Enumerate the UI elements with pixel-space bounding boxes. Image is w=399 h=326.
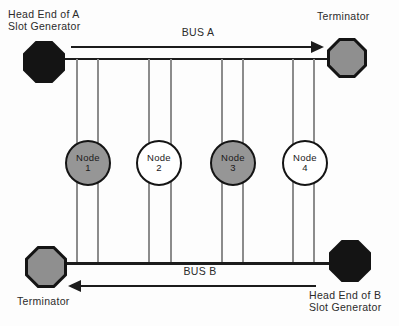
terminator-top-label: Terminator [317,11,370,23]
node-2: Node 2 [136,140,182,186]
bus-a-label: BUS A [158,27,238,39]
head-end-b-octagon-icon [329,240,371,282]
terminator-bottom-octagon-fill [28,249,64,285]
node-4: Node 4 [282,140,328,186]
terminator-bottom-label: Terminator [17,296,70,308]
node-1-number: 1 [85,163,91,174]
terminator-bottom-octagon-icon [25,246,67,288]
head-end-a-label-line2: Slot Generator [8,21,81,33]
head-end-a-octagon-icon [23,41,65,83]
terminator-top-octagon-fill [330,41,364,75]
bus-a-arrow-shaft [71,46,312,48]
head-end-b-label-line2: Slot Generator [309,302,382,314]
node-4-number: 4 [302,163,308,174]
head-end-b-label: Head End of B Slot Generator [309,290,382,314]
bus-b-label: BUS B [160,266,240,278]
node-2-number: 2 [156,163,162,174]
node-1: Node 1 [65,140,111,186]
node-3-number: 3 [230,163,236,174]
terminator-top-octagon-icon [327,38,367,78]
bus-b-arrow-left-icon [68,280,81,292]
node-3: Node 3 [210,140,256,186]
bus-a-arrow-right-icon [311,41,324,53]
head-end-a-label: Head End of A Slot Generator [8,9,81,33]
bus-b-arrow-shaft [81,285,316,287]
dual-bus-network-diagram: Head End of A Slot Generator Terminator … [0,0,399,326]
